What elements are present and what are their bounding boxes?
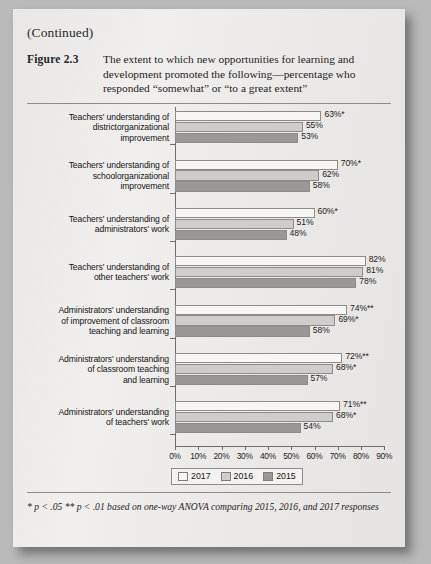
bar-row: 57%	[175, 375, 384, 385]
x-axis-tick	[198, 446, 199, 450]
bar-row: 82%	[175, 256, 384, 266]
bar-value-label: 55%	[306, 120, 323, 130]
bar-value-label: 71%**	[343, 399, 366, 409]
x-axis-tick	[268, 446, 269, 450]
bar-value-label: 81%	[366, 265, 383, 275]
legend-swatch-icon	[178, 472, 188, 481]
category-tick	[170, 144, 175, 145]
bar-value-label: 57%	[311, 373, 328, 383]
bar-row: 55%	[175, 122, 384, 132]
bar-2015	[175, 326, 310, 336]
bar-row: 58%	[175, 181, 384, 191]
bar-2017	[175, 353, 342, 363]
bar-group: 63%*55%53%	[175, 111, 384, 144]
x-axis-tick	[222, 446, 223, 450]
category-tick	[170, 338, 175, 339]
bar-2016	[175, 315, 335, 325]
bar-value-label: 48%	[290, 228, 307, 238]
bar-2017	[175, 256, 366, 266]
bar-value-label: 51%	[297, 217, 314, 227]
legend-label: 2015	[276, 471, 296, 481]
legend-swatch-icon	[263, 472, 273, 481]
bar-value-label: 72%**	[345, 351, 368, 361]
figure-caption: The extent to which new opportunities fo…	[103, 52, 393, 96]
x-axis-tick-label: 40%	[260, 451, 276, 461]
bar-chart: 63%*55%53%70%*62%58%60%*51%48%82%81%78%7…	[13, 105, 405, 493]
bar-row: 78%	[175, 278, 384, 288]
bar-2015	[175, 181, 310, 191]
bar-value-label: 60%*	[318, 206, 338, 216]
bar-row: 68%*	[175, 412, 384, 422]
x-axis-tick	[384, 446, 385, 450]
x-axis-tick-label: 10%	[190, 451, 206, 461]
legend-item-2015: 2015	[263, 471, 296, 481]
bar-row: 68%*	[175, 364, 384, 374]
bar-group: 70%*62%58%	[175, 160, 384, 193]
bar-2017	[175, 208, 315, 218]
bar-row: 54%	[175, 423, 384, 433]
figure-footnote: * p < .05 ** p < .01 based on one-way AN…	[27, 501, 379, 513]
x-axis-tick-label: 20%	[213, 451, 229, 461]
legend-item-2017: 2017	[178, 471, 211, 481]
category-tick	[170, 289, 175, 290]
x-axis-tick	[361, 446, 362, 450]
category-tick	[170, 386, 175, 387]
bar-row: 70%*	[175, 160, 384, 170]
bar-row: 48%	[175, 230, 384, 240]
continued-label: (Continued)	[27, 25, 93, 41]
category-tick	[170, 193, 175, 194]
divider-bottom	[27, 492, 391, 493]
bar-2017	[175, 401, 340, 411]
figure-number: Figure 2.3	[27, 53, 79, 65]
bar-value-label: 78%	[359, 276, 376, 286]
x-axis-tick-label: 0%	[169, 451, 181, 461]
bar-row: 63%*	[175, 111, 384, 121]
bar-value-label: 58%	[313, 180, 330, 190]
x-axis-tick	[245, 446, 246, 450]
bar-2017	[175, 305, 347, 315]
legend-label: 2017	[191, 471, 211, 481]
bar-2016	[175, 219, 294, 229]
x-axis-tick-label: 50%	[283, 451, 299, 461]
category-axis-line	[175, 446, 385, 447]
bar-value-label: 68%*	[336, 362, 356, 372]
plot-area: 63%*55%53%70%*62%58%60%*51%48%82%81%78%7…	[175, 107, 384, 445]
bar-2015	[175, 133, 298, 143]
bar-value-label: 62%	[322, 169, 339, 179]
bar-group: 82%81%78%	[175, 256, 384, 289]
bar-group: 71%**68%*54%	[175, 401, 384, 434]
bar-row: 58%	[175, 326, 384, 336]
bar-2016	[175, 122, 303, 132]
bar-row: 69%*	[175, 315, 384, 325]
bar-2016	[175, 170, 319, 180]
bar-row: 81%	[175, 267, 384, 277]
book-page-sheet: (Continued) Figure 2.3 The extent to whi…	[13, 9, 405, 547]
x-axis-tick-label: 30%	[237, 451, 253, 461]
x-axis-tick-label: 70%	[330, 451, 346, 461]
bar-value-label: 54%	[304, 421, 321, 431]
bar-row: 51%	[175, 219, 384, 229]
legend-item-2016: 2016	[221, 471, 254, 481]
page-content: (Continued) Figure 2.3 The extent to whi…	[13, 9, 405, 547]
bar-2017	[175, 160, 338, 170]
bar-group: 74%**69%*58%	[175, 305, 384, 338]
bar-value-label: 68%*	[336, 410, 356, 420]
bar-2016	[175, 267, 363, 277]
bar-value-label: 53%	[301, 131, 318, 141]
divider-top	[27, 103, 391, 104]
x-axis-tick-label: 80%	[353, 451, 369, 461]
bar-value-label: 58%	[313, 325, 330, 335]
bar-row: 53%	[175, 133, 384, 143]
x-axis-tick	[291, 446, 292, 450]
category-tick	[170, 434, 175, 435]
bar-2016	[175, 364, 333, 374]
x-axis-tick	[338, 446, 339, 450]
bar-2015	[175, 278, 356, 288]
bar-2017	[175, 111, 321, 121]
bar-row: 62%	[175, 170, 384, 180]
bar-value-label: 74%**	[350, 303, 373, 313]
category-tick	[170, 241, 175, 242]
bar-2015	[175, 423, 301, 433]
bar-2015	[175, 230, 287, 240]
bar-group: 60%*51%48%	[175, 208, 384, 241]
